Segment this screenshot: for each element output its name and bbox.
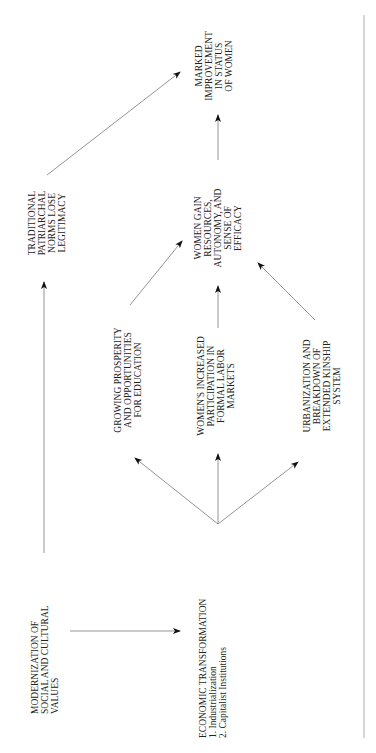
node-line: OF WOMEN	[224, 26, 234, 106]
node-line: VALUES	[50, 594, 60, 714]
node-title: ECONOMIC TRANSFORMATION	[198, 578, 208, 738]
node-line: LEGITIMACY	[57, 180, 67, 266]
node-traditional-norms: TRADITIONAL PATRIARCHAL NORMS LOSE LEGIT…	[27, 180, 67, 266]
node-line: SENSE OF	[223, 178, 233, 278]
node-line: AND OPPORTUNITIES	[123, 317, 133, 443]
node-line: TRADITIONAL	[27, 180, 37, 266]
node-line: GROWING PROSPERITY	[113, 317, 123, 443]
node-growing-prosperity: GROWING PROSPERITY AND OPPORTUNITIES FOR…	[113, 317, 143, 443]
node-item: 2. Capitalist Institutions	[218, 578, 228, 738]
node-line: URBANIZATION AND	[302, 332, 312, 440]
node-economic-transformation: ECONOMIC TRANSFORMATION 1. Industrializa…	[198, 578, 228, 738]
node-modernization: MODERNIZATION OF SOCIAL AND CULTURAL VAL…	[30, 594, 60, 714]
node-line: MARKETS	[226, 332, 236, 440]
node-line: BREAKDOWN OF	[312, 332, 322, 440]
node-line: SOCIAL AND CULTURAL	[40, 594, 50, 714]
node-urbanization: URBANIZATION AND BREAKDOWN OF EXTENDED K…	[302, 332, 342, 440]
node-line: PARTICIPATION IN	[206, 332, 216, 440]
node-line: FOR EDUCATION	[133, 317, 143, 443]
node-line: EFFICACY	[233, 178, 243, 278]
node-line: AUTONOMY, AND	[213, 178, 223, 278]
node-line: MARKED	[194, 26, 204, 106]
node-line: PATRIARCHAL	[37, 180, 47, 266]
node-line: SYSTEM	[332, 332, 342, 440]
node-line: EXTENDED KINSHIP	[322, 332, 332, 440]
node-line: NORMS LOSE	[47, 180, 57, 266]
node-line: IN STATUS	[214, 26, 224, 106]
node-line: WOMEN'S INCREASED	[196, 332, 206, 440]
node-line: WOMEN GAIN	[193, 178, 203, 278]
node-item: 1. Industrialization	[208, 578, 218, 738]
edge-economic-urbanization	[218, 462, 298, 524]
node-line: RESOURCES,	[203, 178, 213, 278]
edge-urbanization-womengain	[258, 263, 315, 320]
node-women-gain: WOMEN GAIN RESOURCES, AUTONOMY, AND SENS…	[193, 178, 243, 278]
node-line: IMPROVEMENT	[204, 26, 214, 106]
edge-economic-prosperity	[135, 458, 218, 524]
node-labor-participation: WOMEN'S INCREASED PARTICIPATION IN FORMA…	[196, 332, 236, 440]
node-line: FORMAL LABOR	[216, 332, 226, 440]
edge-traditional-marked	[47, 72, 180, 175]
node-line: MODERNIZATION OF	[30, 594, 40, 714]
node-marked-improvement: MARKED IMPROVEMENT IN STATUS OF WOMEN	[194, 26, 234, 106]
edge-prosperity-womengain	[130, 241, 182, 305]
